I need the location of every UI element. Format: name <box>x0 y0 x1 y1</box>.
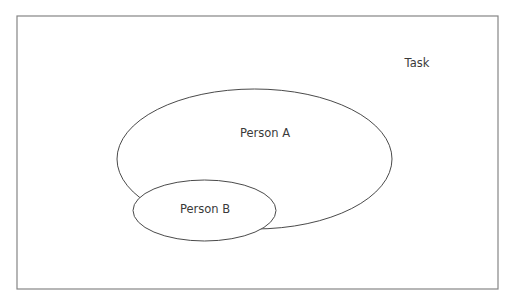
person-b-label: Person B <box>180 202 230 216</box>
person-a-label: Person A <box>240 126 290 140</box>
task-label: Task <box>404 56 430 70</box>
venn-diagram: Task Person A Person B <box>0 0 517 303</box>
